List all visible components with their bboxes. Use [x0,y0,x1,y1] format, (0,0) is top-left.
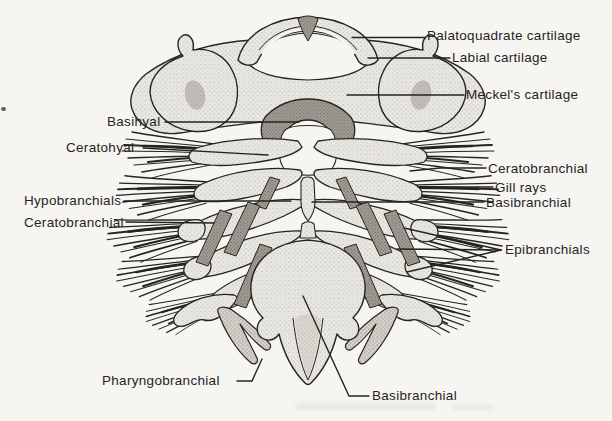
scan-smudge [296,404,436,409]
scan-speck [1,107,6,111]
label-palatoquadrate-cartilage: Palatoquadrate cartilage [427,29,581,43]
label-labial-cartilage: Labial cartilage [452,51,548,65]
label-ceratohyal: Ceratohyal [66,141,134,155]
label-basibranchial-right: Basibranchial [486,196,571,210]
label-basihyal: Basihyal [107,115,160,129]
label-ceratobranchial-left: Ceratobranchial [24,216,124,230]
label-gill-rays: Gill rays [495,181,546,195]
leader-ceratobranchial-left [126,222,214,223]
label-pharyngobranchial: Pharyngobranchial [102,374,220,388]
figure-visceral-skeleton: Palatoquadrate cartilage Labial cartilag… [0,0,612,421]
label-hypobranchials: Hypobranchials [24,194,121,208]
label-basibranchial-bottom: Basibranchial [372,389,457,403]
basibranchial-rod [300,222,316,238]
label-epibranchials: Epibranchials [505,243,590,257]
scan-smudge [452,405,494,409]
leader-epibranchials-2 [397,249,501,250]
branchial-arch-1 [314,168,422,201]
label-ceratobranchial-right: Ceratobranchial [488,162,588,176]
label-meckels-cartilage: Meckel's cartilage [466,88,578,102]
basibranchial-rod [301,177,315,221]
